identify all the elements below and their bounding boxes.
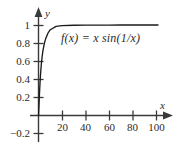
figure-xsin1overx: 1 0.8 0.6 0.4 0.2 −0.2 20 40 60 80 100 y…	[0, 0, 179, 148]
y-tick-label-0-4: 0.4	[2, 74, 30, 85]
y-axis-label: y	[45, 8, 50, 19]
y-tick-label-neg-0-2: −0.2	[0, 128, 30, 139]
function-annotation: f(x) = x sin(1/x)	[61, 32, 140, 44]
y-tick-label-0-6: 0.6	[2, 56, 30, 67]
y-tick-label-0-2: 0.2	[2, 92, 30, 103]
x-axis-arrowhead	[163, 111, 173, 119]
x-axis-label: x	[160, 100, 165, 111]
x-tick-label-40: 40	[72, 122, 99, 133]
x-tick-label-100: 100	[142, 122, 171, 133]
y-axis-arrowhead	[35, 7, 43, 17]
y-tick-label-1: 1	[2, 20, 30, 31]
y-tick-label-0-8: 0.8	[2, 38, 30, 49]
